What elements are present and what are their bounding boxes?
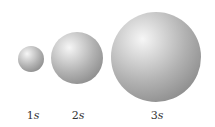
sphere-2s [51,32,103,84]
label-1s-orbital: s [34,109,40,122]
label-2s-number: 2 [72,109,79,122]
label-3s-orbital: s [158,109,164,122]
label-2s: 2s [68,109,88,123]
label-2s-orbital: s [79,109,85,122]
sphere-3s [111,12,201,102]
label-1s: 1s [23,109,43,123]
label-1s-number: 1 [27,109,34,122]
orbital-size-diagram: 1s 2s 3s [0,0,215,127]
label-3s-number: 3 [151,109,158,122]
sphere-1s [18,46,44,72]
label-3s: 3s [147,109,167,123]
